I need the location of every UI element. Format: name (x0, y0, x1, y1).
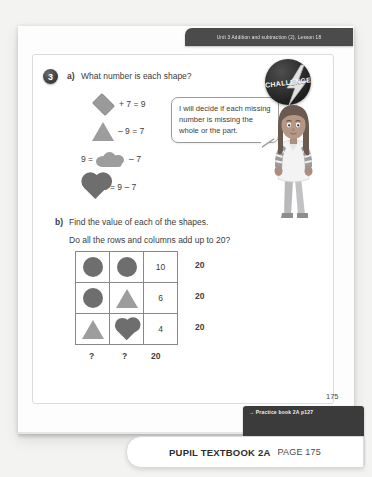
equation-row-4: = 9 – 7 (85, 177, 136, 196)
table-row: 6 (76, 283, 178, 314)
equation-row-3: 9 = – 7 (81, 151, 141, 167)
circle-shape-icon (83, 257, 103, 277)
grid-cell-r3c2 (110, 314, 144, 345)
equation-row-2: – 9 = 7 (91, 121, 144, 141)
shape-grid-wrapper: 10 6 4 20 20 20 ? ? 20 (75, 251, 178, 345)
challenge-badge: CHALLENGE (265, 59, 311, 105)
grid-cell-r2c2 (110, 283, 144, 314)
part-b-subtext: Do all the rows and columns add up to 20… (69, 235, 230, 245)
grid-cell-r3c1 (76, 314, 110, 345)
circle-shape-icon (117, 257, 137, 277)
heart-shape-icon (85, 177, 107, 196)
bottom-bar-title: PUPIL TEXTBOOK 2A (169, 447, 270, 458)
question-number-badge: 3 (43, 69, 58, 84)
triangle-shape-icon (91, 121, 115, 141)
column-total-1: ? (89, 351, 94, 361)
table-row: 4 (76, 314, 178, 345)
row-total-1: 20 (195, 260, 204, 270)
speech-bubble-text: I will decide if each missing number is … (179, 104, 271, 135)
screenshot-root: Unit 3 Addition and subtraction (2), Les… (0, 0, 372, 477)
triangle-shape-icon (82, 320, 104, 339)
triangle-shape-icon (116, 289, 138, 308)
unit-banner-text: Unit 3 Addition and subtraction (2), Les… (217, 34, 321, 39)
column-total-3: 20 (151, 351, 160, 361)
part-a-label: a) (67, 71, 75, 81)
equation-1-text: + 7 = 9 (119, 99, 145, 109)
content-frame: 3 a) What number is each shape? + 7 = 9 … (32, 54, 334, 404)
equation-4-text: = 9 – 7 (110, 182, 136, 192)
table-row: 10 (76, 252, 178, 283)
grid-cell-r1c3: 10 (144, 252, 178, 283)
cloud-shape-icon (96, 151, 126, 167)
bottom-bar-page: PAGE 175 (277, 447, 320, 457)
row-total-3: 20 (195, 322, 204, 332)
shape-grid: 10 6 4 (75, 251, 178, 345)
diamond-shape-icon (91, 95, 116, 113)
column-total-2: ? (122, 351, 127, 361)
bottom-status-bar: PUPIL TEXTBOOK 2A PAGE 175 (126, 436, 364, 468)
equation-2-text: – 9 = 7 (118, 126, 144, 136)
equation-3-prefix: 9 = (81, 154, 93, 164)
grid-cell-r1c1 (76, 252, 110, 283)
part-b-label: b) (55, 217, 63, 227)
grid-cell-r3c3: 4 (144, 314, 178, 345)
circle-shape-icon (83, 288, 103, 308)
equation-3-text: – 7 (129, 154, 141, 164)
part-a-text: What number is each shape? (81, 71, 192, 81)
unit-banner: Unit 3 Addition and subtraction (2), Les… (185, 28, 353, 46)
grid-cell-r1c2 (110, 252, 144, 283)
row-total-2: 20 (195, 291, 204, 301)
equation-row-1: + 7 = 9 (91, 95, 145, 113)
girl-character (265, 103, 321, 219)
heart-shape-icon (117, 320, 137, 338)
grid-cell-r2c3: 6 (144, 283, 178, 314)
part-b-text: Find the value of each of the shapes. (69, 217, 208, 227)
grid-cell-r2c1 (76, 283, 110, 314)
